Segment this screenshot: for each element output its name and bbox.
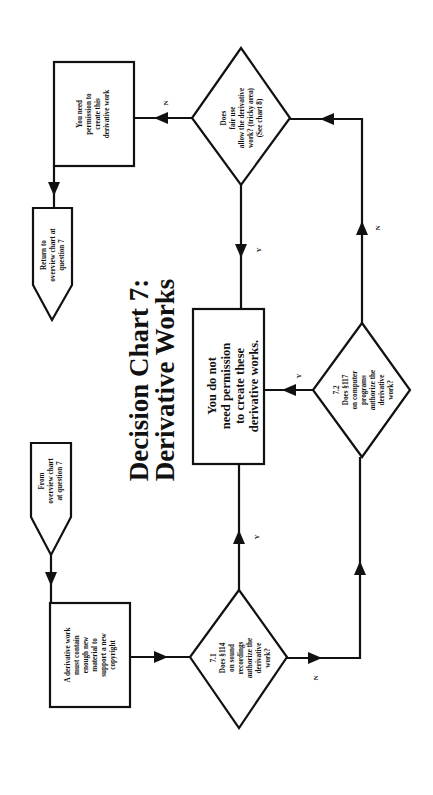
edge-label-q71-no: N (312, 675, 320, 680)
arrow-up-icon (354, 561, 366, 575)
text-line: support a new (100, 632, 108, 676)
edge-q71-no (287, 457, 360, 658)
arrow-right-icon (308, 652, 322, 664)
text-line: to create these (233, 347, 247, 424)
text-line: overview chart (47, 458, 55, 504)
q7-1-text: 7.1 Does §114 on sound recordings author… (210, 638, 272, 679)
arrow-up-icon (356, 221, 368, 235)
edge-q72-no (290, 119, 362, 323)
arrow-left-icon (320, 113, 334, 125)
edge-label-q72-no: N (374, 225, 382, 230)
text-line: work? (264, 648, 272, 668)
text-line: recordings (237, 641, 245, 674)
text-line: work? (387, 380, 395, 400)
q7-2-text: 7.2 Does §117 on computer programs autho… (333, 370, 395, 411)
chart-title: Decision Chart 7: Derivative Works (124, 279, 180, 482)
edge-label-q72-yes: Y (295, 373, 303, 378)
text-line: must contain (73, 635, 81, 675)
text-line: derivative (255, 643, 263, 674)
text-line: derivative (378, 375, 386, 406)
text-line: Return to (40, 240, 48, 270)
edge-label-fair-no: N (162, 100, 170, 105)
text-line: question 7 (58, 239, 66, 271)
text-line: fair use (229, 107, 237, 130)
flowchart-canvas: Decision Chart 7: Derivative Works You n… (0, 0, 433, 795)
text-line: You need (76, 100, 84, 128)
text-line: copyright (109, 640, 117, 670)
arrow-down-icon (48, 182, 60, 196)
text-line: create this (94, 98, 102, 130)
text-line: A derivative work (64, 627, 72, 682)
arrow-up-icon (233, 530, 245, 544)
text-line: derivative works. (247, 340, 261, 432)
edge-label-q71-yes: Y (253, 534, 261, 539)
text-line: Does (220, 110, 228, 125)
text-line: at question 7 (56, 461, 64, 501)
text-line: on computer (351, 370, 359, 410)
enough-material-box (50, 603, 130, 707)
text-line: enough new (82, 636, 90, 673)
text-line: on sound (228, 644, 236, 672)
text-line: work? (tricky area) (247, 88, 255, 148)
text-line: Does §117 (342, 374, 350, 405)
text-line: material to (91, 638, 99, 672)
arrow-left-icon (154, 112, 168, 124)
text-line: authorize the (369, 370, 377, 411)
text-line: From (38, 472, 46, 489)
text-line: Does §114 (219, 642, 227, 673)
text-line: authorize the (246, 638, 254, 679)
arrow-down-icon (235, 244, 247, 258)
arrow-left-icon (282, 384, 296, 396)
text-line: programs (360, 375, 368, 405)
arrow-down-icon (45, 572, 57, 586)
text-line: need permission (219, 343, 233, 430)
text-line: (See chart 8) (256, 98, 264, 137)
text-line: permission to (85, 93, 93, 135)
arrow-right-icon (154, 651, 168, 663)
text-line: 7.1 (210, 653, 218, 662)
title-line-2: Derivative Works (150, 279, 180, 482)
text-line: 7.2 (333, 385, 341, 394)
text-line: You do not (205, 356, 219, 414)
text-line: overview chart at (49, 228, 57, 282)
text-line: allow the derivative (238, 88, 246, 148)
text-line: derivative work (103, 90, 111, 139)
edge-label-fair-yes: Y (255, 247, 263, 252)
